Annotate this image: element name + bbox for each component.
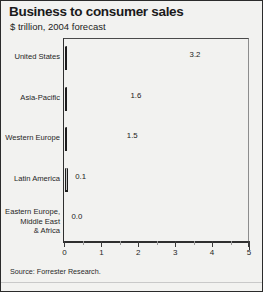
category-label: Latin America xyxy=(0,174,60,183)
x-tick-minor xyxy=(194,241,195,245)
category-label: Eastern Europe, Middle East & Africa xyxy=(0,207,60,235)
bar-container xyxy=(65,87,124,111)
x-tick xyxy=(101,241,102,247)
divider xyxy=(1,282,263,283)
x-tick-label: 3 xyxy=(173,248,177,257)
x-tick-minor xyxy=(120,241,121,245)
bar-value-label: 1.6 xyxy=(131,91,142,100)
chart-title: Business to consumer sales xyxy=(9,4,184,19)
bar-united-states xyxy=(65,46,67,70)
category-label: Western Europe xyxy=(0,133,60,142)
x-tick xyxy=(248,241,249,247)
bar-container xyxy=(65,46,183,70)
bar-value-label: 0.1 xyxy=(75,172,86,181)
bar-latin-america xyxy=(65,168,69,192)
source-note: Source: Forrester Research. xyxy=(10,267,101,276)
category-label: Asia-Pacific xyxy=(0,93,60,102)
x-tick-label: 2 xyxy=(136,248,140,257)
bar-value-label: 0.0 xyxy=(72,212,83,221)
bar-container xyxy=(65,168,69,192)
x-tick-label: 1 xyxy=(99,248,103,257)
bar-row: Western Europe 1.5 xyxy=(1,119,263,160)
bar-row: United States 3.2 xyxy=(1,38,263,79)
x-tick-label: 5 xyxy=(247,248,251,257)
bar-row: Asia-Pacific 1.6 xyxy=(1,79,263,120)
x-tick-label: 4 xyxy=(210,248,214,257)
x-tick xyxy=(212,241,213,247)
x-tick-minor xyxy=(231,241,232,245)
bar-western-europe xyxy=(65,127,67,151)
x-tick-minor xyxy=(83,241,84,245)
x-tick-label: 0 xyxy=(62,248,66,257)
bar-row: Eastern Europe, Middle East & Africa 0.0 xyxy=(1,200,263,241)
bar-value-label: 3.2 xyxy=(190,50,201,59)
bar-row: Latin America 0.1 xyxy=(1,160,263,201)
x-tick-minor xyxy=(157,241,158,245)
chart-subtitle: $ trillion, 2004 forecast xyxy=(10,21,106,32)
chart-panel: Business to consumer sales $ trillion, 2… xyxy=(0,0,263,292)
x-tick xyxy=(175,241,176,247)
category-label: United States xyxy=(0,52,60,61)
x-tick xyxy=(64,241,65,247)
bar-asia-pacific xyxy=(65,87,67,111)
bar-container xyxy=(65,127,120,151)
x-tick xyxy=(138,241,139,247)
bar-value-label: 1.5 xyxy=(127,131,138,140)
